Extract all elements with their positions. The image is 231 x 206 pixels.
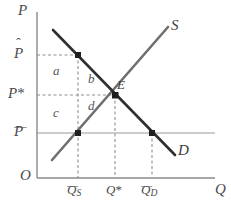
demand-curve-label: D bbox=[178, 143, 189, 158]
equilibrium-point-label: E bbox=[117, 78, 125, 91]
supply-demand-figure: P Q O P ̂ P* P — Q — S Q* Q — D S D E bbox=[0, 0, 231, 206]
quantity-label-q-d-subscript: D bbox=[150, 188, 157, 198]
price-label-p-star: P* bbox=[8, 86, 25, 101]
dot-p-bar-on-supply bbox=[75, 130, 81, 136]
diagram-canvas bbox=[0, 0, 231, 206]
star-accent-icon: * bbox=[115, 182, 122, 197]
dot-p-bar-on-demand bbox=[149, 130, 155, 136]
price-label-p-bar: P — bbox=[14, 124, 23, 139]
dot-p-hat-on-demand bbox=[75, 52, 81, 58]
star-accent-icon: * bbox=[17, 85, 25, 101]
y-axis-label: P bbox=[18, 3, 27, 18]
region-label-b: b bbox=[88, 72, 95, 85]
quantity-label-q-d: Q — D bbox=[141, 183, 157, 198]
region-label-c: c bbox=[53, 106, 59, 119]
supply-curve-label: S bbox=[171, 18, 179, 33]
price-label-p-star-base: P bbox=[8, 85, 17, 101]
region-label-d: d bbox=[88, 99, 95, 112]
price-label-p-hat-base: P bbox=[14, 46, 23, 61]
x-axis-label: Q bbox=[215, 182, 226, 197]
quantity-label-q-star-base: Q bbox=[106, 182, 115, 197]
quantity-label-q-s-subscript: S bbox=[76, 188, 81, 198]
quantity-label-q-star: Q* bbox=[106, 183, 122, 196]
dot-equilibrium bbox=[112, 92, 119, 99]
quantity-label-q-d-base: Q bbox=[141, 183, 150, 196]
region-label-a: a bbox=[53, 64, 60, 77]
price-label-p-hat: P ̂ bbox=[14, 46, 23, 61]
price-label-p-bar-base: P bbox=[14, 124, 23, 139]
origin-label: O bbox=[20, 168, 31, 183]
quantity-label-q-s: Q — S bbox=[67, 183, 81, 198]
quantity-label-q-s-base: Q bbox=[67, 183, 76, 196]
guide-lines bbox=[37, 55, 215, 133]
